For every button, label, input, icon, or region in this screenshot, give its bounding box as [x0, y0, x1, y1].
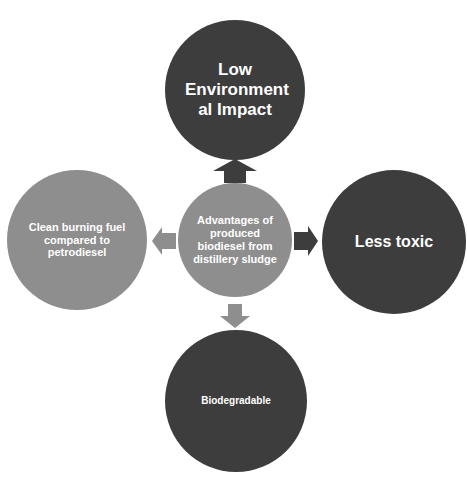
node-biodegradable: Biodegradable [165, 330, 307, 472]
center-node-advantages: Advantages of produced biodiesel from di… [178, 183, 292, 297]
center-label: Advantages of produced biodiesel from di… [193, 214, 277, 266]
arrow-right-icon [294, 226, 318, 256]
arrow-down-icon [220, 304, 250, 328]
node-label: Biodegradable [201, 395, 270, 407]
node-clean-burning-fuel: Clean burning fuel compared to petrodies… [7, 170, 147, 310]
node-label: Less toxic [355, 233, 433, 252]
arrow-up-icon [213, 159, 257, 183]
node-label: Low Environment al Impact [185, 60, 285, 120]
node-label: Clean burning fuel compared to petrodies… [23, 221, 131, 260]
arrow-left-icon [152, 227, 176, 255]
node-low-environmental-impact: Low Environment al Impact [165, 20, 305, 160]
node-less-toxic: Less toxic [322, 170, 466, 314]
